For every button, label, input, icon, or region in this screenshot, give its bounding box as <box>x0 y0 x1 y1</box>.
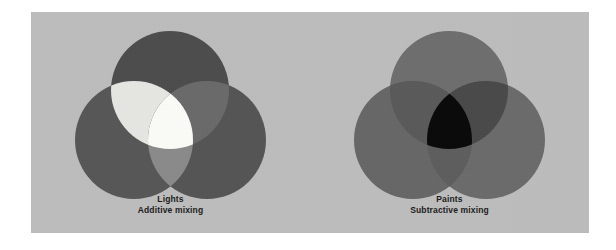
additive-caption: Lights Additive mixing <box>31 194 310 215</box>
figure-root: Lights Additive mixing <box>0 0 616 250</box>
subtractive-caption: Paints Subtractive mixing <box>310 194 589 215</box>
subtractive-caption-title: Paints <box>310 194 589 205</box>
figure-plate: Lights Additive mixing <box>31 12 589 233</box>
venn-diagram-subtractive: Paints Subtractive mixing <box>310 12 589 233</box>
subtractive-caption-subtitle: Subtractive mixing <box>310 205 589 216</box>
venn-diagram-additive: Lights Additive mixing <box>31 12 310 233</box>
additive-caption-title: Lights <box>31 194 310 205</box>
additive-caption-subtitle: Additive mixing <box>31 205 310 216</box>
